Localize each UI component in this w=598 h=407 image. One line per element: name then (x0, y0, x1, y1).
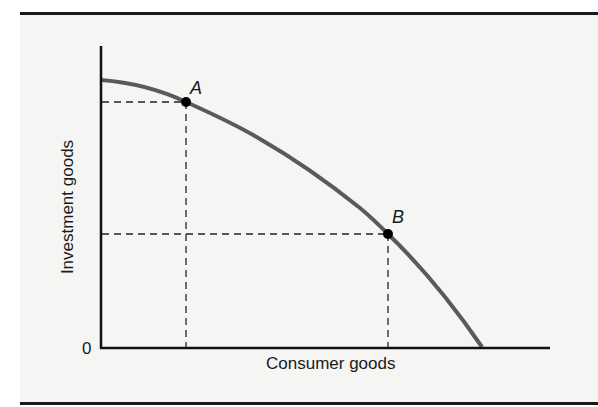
ppf-curve (101, 80, 482, 347)
point-a-label: A (190, 78, 202, 99)
guide-lines (102, 102, 388, 347)
x-axis-label: Consumer goods (266, 354, 395, 374)
origin-label: 0 (82, 339, 91, 359)
y-axis-label: Investment goods (58, 140, 78, 274)
point-b-marker (383, 229, 393, 239)
point-b-label: B (392, 207, 404, 228)
